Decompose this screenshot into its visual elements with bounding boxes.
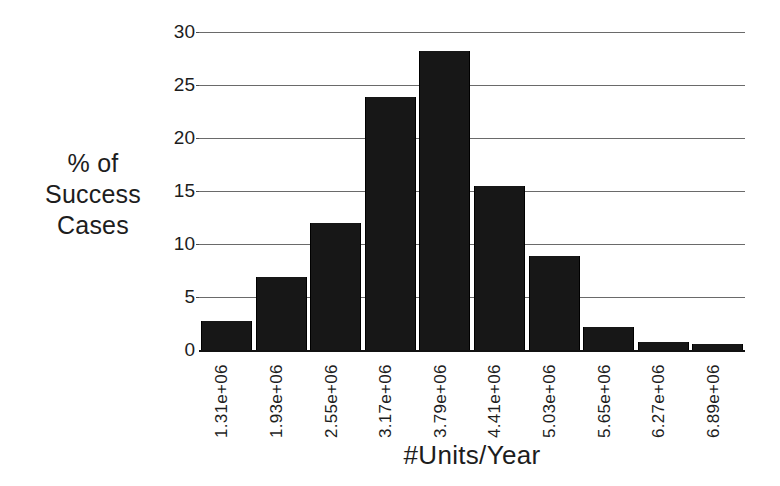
bar [365, 97, 416, 350]
x-tick-label: 1.93e+06 [267, 354, 287, 438]
x-tick-label: 3.17e+06 [376, 354, 396, 438]
bar [419, 51, 470, 350]
bar [638, 342, 689, 350]
x-tick-label: 3.79e+06 [431, 354, 451, 438]
x-axis-title: #Units/Year [199, 440, 745, 471]
y-tick-label: 25 [150, 74, 195, 96]
y-tick-label: 15 [150, 180, 195, 202]
bar [256, 277, 307, 350]
x-axis-baseline [199, 350, 745, 352]
x-tick-label: 4.41e+06 [485, 354, 505, 438]
x-tick-label: 6.27e+06 [649, 354, 669, 438]
bar [583, 327, 634, 350]
x-tick-label: 2.55e+06 [322, 354, 342, 438]
bar [692, 344, 743, 350]
y-tick-label: 0 [150, 339, 195, 361]
y-tick-label: 5 [150, 286, 195, 308]
bar-series [199, 32, 745, 350]
y-tick-label: 30 [150, 21, 195, 43]
bar [529, 256, 580, 350]
bar-chart-figure: % of Success Cases 051015202530 1.31e+06… [0, 0, 780, 486]
y-tick-label: 20 [150, 127, 195, 149]
x-tick-label: 1.31e+06 [212, 354, 232, 438]
bar [474, 186, 525, 350]
x-tick-label: 6.89e+06 [704, 354, 724, 438]
plot-area [199, 32, 745, 350]
bar [310, 223, 361, 350]
y-tick-label: 10 [150, 233, 195, 255]
x-axis-ticks: 1.31e+061.93e+062.55e+063.17e+063.79e+06… [199, 354, 745, 438]
x-tick-label: 5.65e+06 [595, 354, 615, 438]
x-tick-label: 5.03e+06 [540, 354, 560, 438]
bar [201, 321, 252, 350]
